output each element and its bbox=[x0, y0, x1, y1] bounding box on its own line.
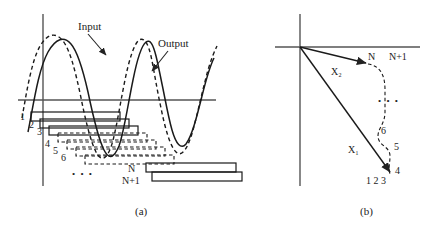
frame-label-2: 2 bbox=[29, 119, 34, 130]
frame-rect-N-plus-1 bbox=[152, 172, 242, 181]
frame-label-4: 4 bbox=[45, 138, 50, 149]
input-label: Input bbox=[78, 20, 101, 32]
trajectory-ellipsis: • • • bbox=[378, 96, 399, 106]
frame-rect-4 bbox=[58, 133, 147, 142]
figure-container: Input Output 1 2 3 4 5 6 N N+1 • • • bbox=[0, 0, 428, 235]
vector-x1-label: X₁ bbox=[348, 144, 359, 155]
output-label: Output bbox=[158, 37, 189, 49]
trajectory-label-N-plus-1: N+1 bbox=[389, 51, 407, 62]
frame-rect-1 bbox=[31, 112, 120, 121]
frame-rect-3 bbox=[49, 126, 138, 135]
frame-rect-N bbox=[146, 163, 236, 172]
output-pointer-arrow bbox=[152, 51, 168, 71]
frame-label-6: 6 bbox=[61, 152, 66, 163]
trajectory-label-5: 5 bbox=[394, 141, 399, 152]
trajectory-label-6: 6 bbox=[381, 125, 386, 136]
frame-label-3: 3 bbox=[37, 126, 42, 137]
frames-ellipsis: • • • bbox=[72, 169, 93, 179]
frame-label-N-plus-1: N+1 bbox=[122, 175, 140, 186]
panel-b: X₂ X₁ 1 2 3 4 5 6 N N+1 • • • bbox=[275, 14, 420, 186]
frame-label-5: 5 bbox=[53, 145, 58, 156]
figure-svg: Input Output 1 2 3 4 5 6 N N+1 • • • bbox=[0, 0, 428, 235]
frame-label-N: N bbox=[128, 163, 135, 174]
panel-a: Input Output 1 2 3 4 5 6 N N+1 • • • bbox=[18, 14, 242, 186]
input-pointer-arrow bbox=[88, 34, 106, 55]
vector-x2-label: X₂ bbox=[331, 66, 342, 77]
vector-x1 bbox=[300, 47, 390, 172]
trajectory-label-123: 1 2 3 bbox=[366, 175, 386, 186]
caption-panel-b: (b) bbox=[360, 205, 373, 218]
frame-rect-2 bbox=[40, 119, 129, 128]
frame-label-1: 1 bbox=[20, 111, 25, 122]
trajectory-label-N: N bbox=[368, 51, 375, 62]
caption-panel-a: (a) bbox=[135, 205, 148, 218]
trajectory-label-4: 4 bbox=[395, 165, 400, 176]
